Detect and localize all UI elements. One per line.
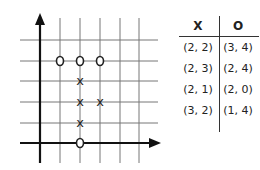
header-x: X — [179, 19, 217, 33]
x-cell: (2, 1) — [179, 83, 217, 96]
x-cell: (3, 2) — [179, 104, 217, 117]
axes — [20, 24, 152, 163]
o-cell: (3, 4) — [217, 41, 257, 54]
o-cell: (2, 0) — [217, 83, 257, 96]
o-mark-icon — [57, 57, 64, 66]
o-mark-icon — [77, 57, 84, 66]
o-cell: (1, 4) — [217, 104, 257, 117]
x-mark-icon: x — [76, 94, 84, 109]
x-cell: (2, 2) — [179, 41, 217, 54]
x-axis-arrow-icon — [149, 138, 161, 148]
header-o: O — [217, 19, 257, 33]
x-mark-icon: x — [76, 73, 84, 88]
table-divider — [219, 16, 220, 132]
o-mark-icon — [77, 139, 84, 148]
coordinates-table: X O (2, 2) (3, 4) (2, 3) (2, 4) (2, 1) (… — [179, 16, 259, 121]
o-mark-icon — [97, 57, 104, 66]
x-mark-icon: x — [76, 115, 84, 130]
coordinate-grid: xxxx — [0, 0, 170, 170]
x-cell: (2, 3) — [179, 62, 217, 75]
o-cell: (2, 4) — [217, 62, 257, 75]
y-axis-arrow-icon — [35, 13, 45, 25]
x-mark-icon: x — [96, 94, 104, 109]
